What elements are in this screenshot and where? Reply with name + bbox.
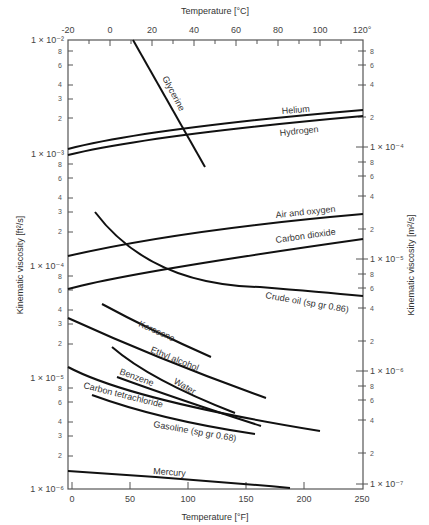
label-hydrogen: Hydrogen xyxy=(279,124,319,138)
svg-text:4: 4 xyxy=(370,417,374,424)
svg-text:1 × 10⁻⁴: 1 × 10⁻⁴ xyxy=(30,261,64,271)
svg-text:2: 2 xyxy=(370,450,374,457)
label-kerosene: Kerosene xyxy=(137,319,176,344)
svg-text:8: 8 xyxy=(370,271,374,278)
svg-text:60: 60 xyxy=(231,25,241,35)
top-axis: -20 0 20 40 60 80 100 120° xyxy=(61,25,371,46)
left-axis-title: Kinematic viscosity [ft²/s] xyxy=(15,216,25,315)
svg-text:1 × 10⁻⁴: 1 × 10⁻⁴ xyxy=(370,142,404,152)
svg-text:1 × 10⁻³: 1 × 10⁻³ xyxy=(31,149,64,159)
svg-text:6: 6 xyxy=(58,62,62,69)
svg-text:80: 80 xyxy=(273,25,283,35)
svg-text:8: 8 xyxy=(58,161,62,168)
svg-text:8: 8 xyxy=(370,48,374,55)
svg-text:3: 3 xyxy=(58,208,62,215)
svg-text:40: 40 xyxy=(189,25,199,35)
svg-text:-20: -20 xyxy=(61,25,74,35)
svg-text:2: 2 xyxy=(58,115,62,122)
svg-text:120°: 120° xyxy=(353,25,372,35)
svg-text:2: 2 xyxy=(58,340,62,347)
svg-text:8: 8 xyxy=(58,385,62,392)
viscosity-chart: Temperature [°C] Temperature [°F] Kinema… xyxy=(0,0,429,525)
label-carbon-dioxide: Carbon dioxide xyxy=(275,227,336,245)
svg-text:1 × 10⁻⁵: 1 × 10⁻⁵ xyxy=(370,254,404,264)
top-axis-title: Temperature [°C] xyxy=(181,6,249,16)
svg-text:6: 6 xyxy=(58,175,62,182)
svg-text:2: 2 xyxy=(58,452,62,459)
svg-text:8: 8 xyxy=(58,48,62,55)
left-axis: 1 × 10⁻² 1 × 10⁻³ 1 × 10⁻⁴ 1 × 10⁻⁵ 1 × … xyxy=(30,35,73,494)
svg-text:2: 2 xyxy=(370,114,374,121)
curves xyxy=(68,40,363,488)
svg-text:6: 6 xyxy=(370,285,374,292)
svg-text:4: 4 xyxy=(370,81,374,88)
svg-text:6: 6 xyxy=(370,173,374,180)
svg-text:8: 8 xyxy=(58,273,62,280)
svg-text:4: 4 xyxy=(58,306,62,313)
svg-text:1 × 10⁻²: 1 × 10⁻² xyxy=(31,35,64,45)
right-axis-title: Kinematic viscosity [m²/s] xyxy=(406,214,416,315)
svg-text:50: 50 xyxy=(125,494,135,504)
svg-text:1 × 10⁻⁶: 1 × 10⁻⁶ xyxy=(30,484,64,494)
svg-text:4: 4 xyxy=(58,418,62,425)
svg-text:6: 6 xyxy=(58,287,62,294)
svg-text:4: 4 xyxy=(58,81,62,88)
label-water: Water xyxy=(172,376,198,396)
svg-text:6: 6 xyxy=(370,397,374,404)
svg-text:6: 6 xyxy=(370,62,374,69)
svg-text:2: 2 xyxy=(370,226,374,233)
svg-text:3: 3 xyxy=(58,95,62,102)
svg-text:100: 100 xyxy=(312,25,327,35)
plot-frame xyxy=(68,40,363,489)
bottom-axis: 0 50 100 150 200 250 xyxy=(69,482,369,504)
curve-glycerine xyxy=(133,40,205,167)
svg-text:150: 150 xyxy=(238,494,253,504)
svg-text:8: 8 xyxy=(370,383,374,390)
curve-helium xyxy=(68,110,363,149)
svg-text:4: 4 xyxy=(370,193,374,200)
svg-text:1 × 10⁻⁷: 1 × 10⁻⁷ xyxy=(370,479,403,489)
svg-text:0: 0 xyxy=(107,25,112,35)
svg-text:4: 4 xyxy=(370,305,374,312)
svg-text:3: 3 xyxy=(58,320,62,327)
svg-text:8: 8 xyxy=(370,159,374,166)
svg-text:200: 200 xyxy=(296,494,311,504)
curve-crude-oil xyxy=(95,212,363,296)
svg-text:250: 250 xyxy=(354,494,369,504)
svg-text:2: 2 xyxy=(58,228,62,235)
svg-text:1 × 10⁻⁶: 1 × 10⁻⁶ xyxy=(370,366,404,376)
svg-text:6: 6 xyxy=(58,399,62,406)
svg-text:20: 20 xyxy=(147,25,157,35)
svg-text:2: 2 xyxy=(370,338,374,345)
svg-text:3: 3 xyxy=(58,432,62,439)
bottom-axis-title: Temperature [°F] xyxy=(181,512,248,522)
curve-hydrogen xyxy=(68,116,363,155)
svg-text:4: 4 xyxy=(58,194,62,201)
svg-text:1 × 10⁻⁵: 1 × 10⁻⁵ xyxy=(30,373,64,383)
svg-text:100: 100 xyxy=(180,494,195,504)
svg-text:0: 0 xyxy=(69,494,74,504)
